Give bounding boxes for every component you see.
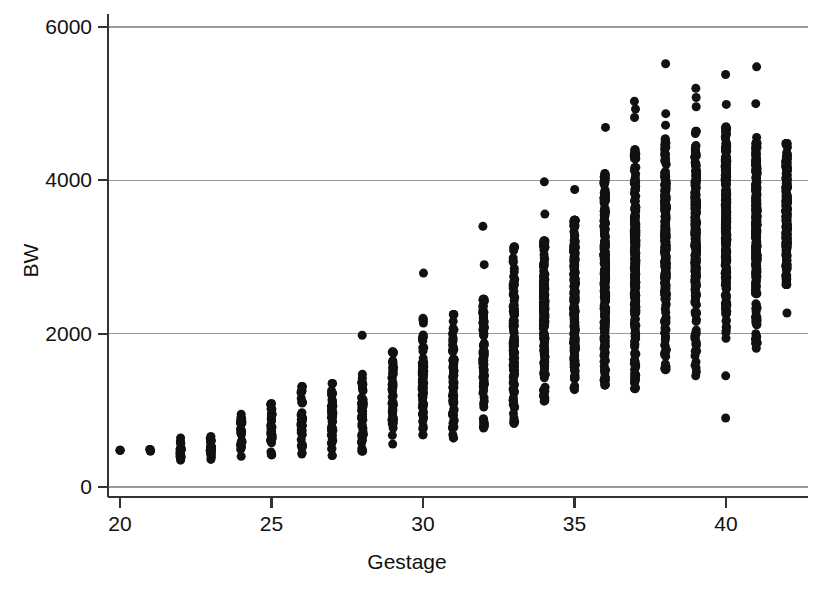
data-point [571,345,580,354]
data-point [691,347,700,356]
data-point [358,414,367,423]
data-point [752,344,761,353]
data-point [418,335,427,344]
data-point [479,311,488,320]
data-point-outlier [661,109,670,118]
data-point [601,332,610,341]
data-point [722,326,731,335]
data-point [600,345,609,354]
data-point [600,381,609,390]
data-point [782,231,791,240]
data-point [237,452,246,461]
data-point [570,259,579,268]
data-point [691,241,700,250]
data-point [661,134,670,143]
data-point [419,430,428,439]
data-point [630,365,639,374]
data-point [752,165,761,174]
data-point-outlier [540,210,549,219]
data-point [388,393,397,402]
data-point [297,441,306,450]
data-point [721,210,730,219]
data-point [570,321,579,330]
data-point [721,190,730,199]
x-tick-label-20: 20 [80,513,160,534]
data-point [691,127,700,136]
data-point [419,314,428,323]
data-point [691,258,700,267]
data-point [783,239,792,248]
data-point [661,201,670,210]
data-point [630,256,639,265]
data-point [661,229,670,238]
data-point [267,450,276,459]
data-point [479,399,488,408]
data-point [600,211,609,220]
data-point [752,179,761,188]
data-point [691,158,700,167]
data-point [631,183,640,192]
data-point [418,417,427,426]
data-point [509,361,518,370]
data-point [630,320,639,329]
data-point [267,434,276,443]
data-point [570,216,579,225]
data-point [691,228,700,237]
data-point [297,382,306,391]
data-point [570,235,579,244]
data-point [358,370,367,379]
data-point [236,441,245,450]
data-point [540,330,549,339]
data-point [267,399,276,408]
data-point [630,356,639,365]
data-point-outlier [751,329,760,338]
data-point [661,167,670,176]
data-point [388,348,397,357]
data-point [751,287,760,296]
data-point-outlier [630,113,639,122]
data-point [631,145,640,154]
y-tick-label-4000: 4000 [45,169,92,190]
data-point [751,205,760,214]
data-point [448,347,457,356]
data-points-group [116,59,792,464]
data-point [450,325,459,334]
data-point [237,410,246,419]
data-point [510,293,519,302]
x-tick-label-35: 35 [535,513,615,534]
data-point [630,300,639,309]
data-point [418,403,427,412]
data-point [691,334,700,343]
data-point [601,356,610,365]
data-point [358,446,367,455]
data-point-outlier [782,308,791,317]
data-point [571,367,580,376]
data-point [782,221,791,230]
data-point [721,249,730,258]
data-point [691,148,700,157]
data-point [480,347,489,356]
data-point-outlier [540,177,549,186]
data-point [449,433,458,442]
data-point [510,332,519,341]
data-point [662,270,671,279]
data-point [631,384,640,393]
data-point [722,302,731,311]
data-point [692,310,701,319]
data-point [540,236,549,245]
data-point [479,366,488,375]
data-point [388,356,397,365]
data-point [631,281,640,290]
data-point [509,256,518,265]
data-point [389,424,398,433]
data-point [116,446,125,455]
x-tick-label-40: 40 [686,513,766,534]
data-point [631,204,640,213]
data-point-outlier [601,123,610,132]
data-point [661,259,670,268]
data-point [570,355,579,364]
plot-canvas [0,0,814,598]
data-point [721,280,730,289]
data-point [510,370,519,379]
data-point-outlier [478,222,487,231]
